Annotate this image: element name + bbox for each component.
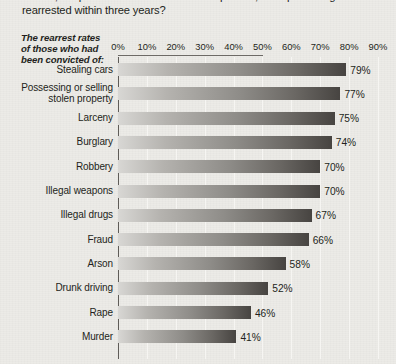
bar-category-label: Murder: [82, 331, 113, 342]
bar-category-label-line: Larceny: [78, 113, 113, 124]
bar-value-label: 58%: [290, 258, 310, 269]
bar-row[interactable]: Larceny75%: [118, 112, 335, 125]
bar-category-label: Drunk driving: [55, 283, 113, 294]
bar-value-label: 70%: [324, 161, 344, 172]
bar[interactable]: [118, 112, 335, 125]
bar-row[interactable]: Rape46%: [118, 306, 251, 319]
bar-row[interactable]: Fraud66%: [118, 233, 309, 246]
bar-row[interactable]: Stealing cars79%: [118, 63, 346, 76]
bar-value-label: 74%: [336, 137, 356, 148]
bar-category-label: Robbery: [76, 161, 113, 172]
x-tick-40pct: 40%: [224, 41, 243, 52]
bar-chart-plot-area: Stealing cars79%Possessing or sellingsto…: [118, 57, 378, 359]
bar[interactable]: [118, 136, 332, 149]
bar-category-label-line: Burglary: [77, 137, 113, 148]
bar-category-label: Larceny: [78, 113, 113, 124]
bar-value-label: 41%: [240, 331, 260, 342]
bar-category-label: Arson: [87, 258, 113, 269]
bar-value-label: 66%: [313, 234, 333, 245]
bar-category-label-line: Murder: [82, 331, 113, 342]
bar-row[interactable]: Murder41%: [118, 330, 236, 343]
gridline-70: [320, 57, 321, 359]
bar-category-label-line: Robbery: [76, 161, 113, 172]
bar[interactable]: [118, 87, 340, 100]
bar-value-label: 75%: [339, 113, 359, 124]
bar-category-label-line: Arson: [87, 258, 113, 269]
bar-value-label: 67%: [316, 210, 336, 221]
bar-value-label: 77%: [344, 88, 364, 99]
bar-category-label: Illegal weapons: [46, 186, 113, 197]
axis-top-rule: [118, 55, 263, 56]
bar[interactable]: [118, 233, 309, 246]
bar-row[interactable]: Burglary74%: [118, 136, 332, 149]
bar-category-label-line: Illegal drugs: [60, 210, 113, 221]
bar-value-label: 70%: [324, 186, 344, 197]
bar-category-label-line: Illegal weapons: [46, 186, 113, 197]
bar-category-label: Burglary: [77, 137, 113, 148]
bar-value-label: 46%: [255, 307, 275, 318]
bar[interactable]: [118, 185, 320, 198]
gridline-80: [349, 57, 350, 359]
bar[interactable]: [118, 282, 268, 295]
bar-category-label: Illegal drugs: [60, 210, 113, 221]
bar-value-label: 79%: [350, 64, 370, 75]
x-tick-80pct: 80%: [340, 41, 359, 52]
bar-value-label: 52%: [272, 283, 292, 294]
question-line-2: rearrested within three years?: [22, 4, 382, 18]
bar-category-label-line: Stealing cars: [56, 64, 113, 75]
x-tick-70pct: 70%: [311, 41, 330, 52]
bar-row[interactable]: Robbery70%: [118, 160, 320, 173]
bar[interactable]: [118, 209, 312, 222]
bar-category-label: Rape: [89, 307, 113, 318]
gridline-90: [378, 57, 379, 359]
bar-row[interactable]: Arson58%: [118, 257, 286, 270]
bar-row[interactable]: Drunk driving52%: [118, 282, 268, 295]
chart-question: Of 272,000 prisoners released from U.S. …: [22, 0, 382, 17]
bar[interactable]: [118, 160, 320, 173]
question-line-1: Of 272,000 prisoners released from U.S. …: [22, 0, 382, 4]
bar-row[interactable]: Illegal drugs67%: [118, 209, 312, 222]
chart-page: Of 272,000 prisoners released from U.S. …: [0, 0, 396, 364]
x-tick-20pct: 20%: [166, 41, 185, 52]
bar-category-label: Stealing cars: [56, 64, 113, 75]
x-tick-90pct: 90%: [369, 41, 388, 52]
bar-row[interactable]: Illegal weapons70%: [118, 185, 320, 198]
x-tick-30pct: 30%: [195, 41, 214, 52]
x-tick-60pct: 60%: [282, 41, 301, 52]
x-axis-tick-labels: 0%10%20%30%40%50%60%70%80%90%: [0, 41, 396, 54]
bar[interactable]: [118, 330, 236, 343]
bar-category-label-line: Rape: [89, 307, 113, 318]
bar[interactable]: [118, 306, 251, 319]
x-tick-10pct: 10%: [137, 41, 156, 52]
bar-category-label: Fraud: [87, 234, 113, 245]
bar[interactable]: [118, 257, 286, 270]
bar-category-label-line: Fraud: [87, 234, 113, 245]
bar-category-label-line: stolen property: [21, 94, 113, 105]
bar-category-label: Possessing or sellingstolen property: [21, 83, 113, 105]
bar-row[interactable]: Possessing or sellingstolen property77%: [118, 87, 340, 100]
bar[interactable]: [118, 63, 346, 76]
x-tick-50pct: 50%: [253, 41, 272, 52]
bar-category-label-line: Drunk driving: [55, 283, 113, 294]
x-tick-0pct: 0%: [111, 41, 125, 52]
